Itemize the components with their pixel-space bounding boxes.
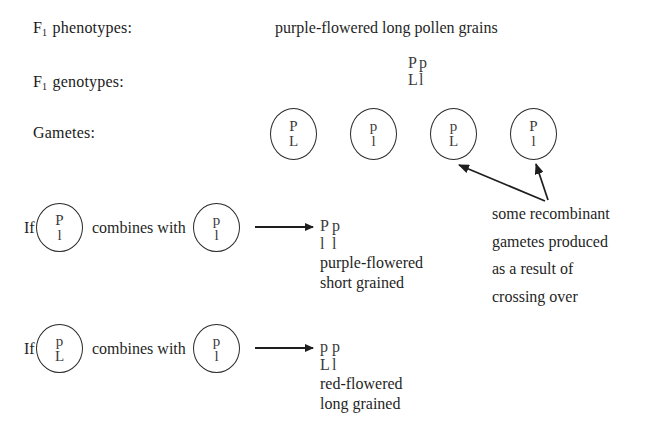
gamete-circle-1: P L (270, 108, 317, 160)
cross-2-result-description-line-2: long grained (320, 394, 403, 414)
f1-genotype-allele-l-upper: L (408, 71, 419, 88)
f1-phenotypes-label: F1 phenotypes: (33, 19, 132, 37)
genetics-linkage-diagram: F1 phenotypes: purple-flowered long poll… (0, 0, 663, 426)
gamete-2-top-allele: p (370, 119, 378, 134)
cross-2-gamete-a-bottom-allele: L (55, 349, 64, 364)
cross-2-gamete-b-circle: p l (193, 324, 240, 373)
cross-1-result-allele-1: P (320, 217, 332, 235)
cross-2-if-label: If (24, 340, 35, 358)
cross-2-result-allele-3: L (320, 356, 332, 374)
cross-1-result-allele-2: p (332, 217, 344, 235)
f1-phenotypes-value: purple-flowered long pollen grains (275, 19, 498, 37)
gamete-circle-3-recombinant: p L (430, 108, 477, 160)
cross-1-result-bottom-row: ll (320, 235, 423, 253)
cross-2-gamete-b-bottom-allele: l (214, 349, 218, 364)
gamete-4-top-allele: P (529, 119, 537, 134)
cross-1-result-description-line-2: short grained (320, 273, 423, 293)
recombinant-annotation-line-2: gametes produced (492, 228, 610, 256)
cross-2-gamete-b-top-allele: p (213, 334, 221, 349)
gamete-circle-2: p l (350, 108, 397, 160)
recombinant-annotation-line-4: crossing over (492, 283, 610, 311)
cross-2-result-top-row: pp (320, 338, 403, 356)
f1-phenotypes-label-subscript: 1 (42, 27, 48, 38)
f1-phenotypes-label-suffix: phenotypes: (48, 19, 132, 36)
f1-genotypes-label-prefix: F (33, 73, 42, 90)
cross-1-gamete-a-top-allele: P (55, 213, 63, 228)
f1-genotypes-label: F1 genotypes: (33, 73, 124, 91)
f1-genotype-allele-l-lower: l (419, 71, 430, 88)
f1-genotype-stack: Pp Ll (408, 54, 430, 88)
cross-2-result-allele-4: l (332, 356, 344, 374)
cross-1-result-description-line-1: purple-flowered (320, 253, 423, 273)
gamete-3-top-allele: p (450, 119, 458, 134)
cross-2-result-description-line-1: red-flowered (320, 374, 403, 394)
gamete-4-bottom-allele: l (531, 134, 535, 149)
cross-2-result-allele-1: p (320, 338, 332, 356)
cross-1-gamete-a-circle: P l (36, 203, 83, 252)
gamete-2-bottom-allele: l (371, 134, 375, 149)
f1-genotypes-label-subscript: 1 (42, 81, 48, 92)
cross-1-gamete-b-top-allele: p (213, 213, 221, 228)
cross-1-gamete-b-bottom-allele: l (214, 228, 218, 243)
cross-1-gamete-a-bottom-allele: l (57, 228, 61, 243)
gamete-1-bottom-allele: L (289, 134, 298, 149)
cross-1-result-allele-3: l (320, 235, 332, 253)
recombinant-pointer-arrow-gamete-4-icon (536, 164, 548, 200)
cross-1-gamete-b-circle: p l (193, 203, 240, 252)
cross-2-combines-label: combines with (92, 340, 186, 358)
recombinant-annotation: some recombinant gametes produced as a r… (492, 200, 610, 310)
gametes-label: Gametes: (33, 124, 95, 142)
cross-1-if-label: If (24, 219, 35, 237)
f1-genotype-top-row: Pp (408, 54, 430, 71)
cross-1-combines-label: combines with (92, 219, 186, 237)
cross-1-result-top-row: Pp (320, 217, 423, 235)
cross-2-gamete-a-top-allele: p (56, 334, 64, 349)
f1-genotype-allele-p-lower: p (419, 54, 430, 71)
gamete-circle-4-recombinant: P l (510, 108, 557, 160)
f1-genotypes-label-suffix: genotypes: (48, 73, 124, 90)
gamete-1-top-allele: P (289, 119, 297, 134)
recombinant-annotation-line-3: as a result of (492, 255, 610, 283)
f1-genotype-bottom-row: Ll (408, 71, 430, 88)
cross-2-result-allele-2: p (332, 338, 344, 356)
cross-1-result-allele-4: l (332, 235, 344, 253)
cross-2-result: pp Ll red-flowered long grained (320, 338, 403, 414)
recombinant-annotation-line-1: some recombinant (492, 200, 610, 228)
gamete-3-bottom-allele: L (449, 134, 458, 149)
cross-2-result-bottom-row: Ll (320, 356, 403, 374)
recombinant-pointer-arrow-gamete-3-icon (459, 165, 545, 201)
cross-2-gamete-a-circle: p L (36, 324, 83, 373)
f1-genotype-allele-p-upper: P (408, 54, 419, 71)
cross-1-result: Pp ll purple-flowered short grained (320, 217, 423, 293)
f1-phenotypes-label-prefix: F (33, 19, 42, 36)
